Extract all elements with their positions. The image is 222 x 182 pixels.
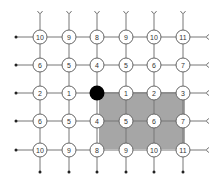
node-label: 6 xyxy=(152,62,156,69)
node-label: 10 xyxy=(150,147,158,154)
node-label: 2 xyxy=(38,90,42,97)
open-end-cap-icon xyxy=(207,63,210,68)
node-label: 7 xyxy=(181,62,185,69)
open-end-cap-icon xyxy=(124,11,129,14)
end-dot-icon xyxy=(15,149,18,152)
node-label: 5 xyxy=(124,118,128,125)
node-label: 10 xyxy=(36,147,44,154)
end-dot-icon xyxy=(96,171,99,174)
node-label: 1 xyxy=(124,90,128,97)
open-end-cap-icon xyxy=(67,11,72,14)
node-label: 6 xyxy=(152,118,156,125)
end-dot-icon xyxy=(15,120,18,123)
node-label: 6 xyxy=(38,62,42,69)
node-label: 2 xyxy=(152,90,156,97)
node-label: 11 xyxy=(179,147,186,154)
node-label: 4 xyxy=(95,62,99,69)
end-dot-icon xyxy=(39,171,42,174)
open-end-cap-icon xyxy=(207,148,210,153)
origin-node xyxy=(90,86,105,101)
end-dot-icon xyxy=(153,171,156,174)
end-dot-icon xyxy=(15,92,18,95)
end-dot-icon xyxy=(68,171,71,174)
end-dot-icon xyxy=(15,36,18,39)
node-label: 8 xyxy=(95,34,99,41)
open-end-cap-icon xyxy=(38,11,43,14)
open-end-cap-icon xyxy=(181,11,186,14)
node-label: 8 xyxy=(95,147,99,154)
node-label: 1 xyxy=(67,90,71,97)
node-label: 10 xyxy=(150,34,158,41)
node-label: 11 xyxy=(179,34,186,41)
node-label: 7 xyxy=(181,118,185,125)
node-label: 10 xyxy=(36,34,44,41)
node-label: 9 xyxy=(124,147,128,154)
open-end-cap-icon xyxy=(95,11,100,14)
node-label: 9 xyxy=(67,147,71,154)
node-label: 5 xyxy=(67,62,71,69)
node-label: 5 xyxy=(124,62,128,69)
node-label: 9 xyxy=(67,34,71,41)
node-label: 5 xyxy=(67,118,71,125)
node-label: 6 xyxy=(38,118,42,125)
node-label: 4 xyxy=(95,118,99,125)
node-label: 9 xyxy=(124,34,128,41)
end-dot-icon xyxy=(15,64,18,67)
open-end-cap-icon xyxy=(207,91,210,96)
end-dot-icon xyxy=(125,171,128,174)
grid-diagram: 10989101165456721123654567109891011 xyxy=(0,0,222,182)
end-dot-icon xyxy=(182,171,185,174)
node-label: 3 xyxy=(181,90,185,97)
open-end-cap-icon xyxy=(207,119,210,124)
open-end-cap-icon xyxy=(207,35,210,40)
open-end-cap-icon xyxy=(152,11,157,14)
